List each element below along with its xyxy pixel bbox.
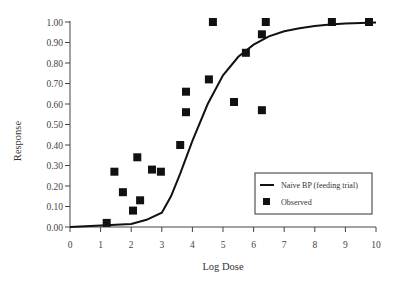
x-tick-label: 0 bbox=[68, 240, 73, 250]
observed-point bbox=[176, 141, 184, 149]
y-tick-label: 0.90 bbox=[46, 38, 63, 48]
legend: Naive BP (feeding trial) Observed bbox=[255, 173, 372, 214]
y-axis-ticks: 0.000.100.200.300.400.500.600.700.800.90… bbox=[46, 18, 70, 233]
observed-point bbox=[258, 106, 266, 114]
x-tick-label: 1 bbox=[98, 240, 103, 250]
observed-point bbox=[129, 207, 137, 215]
y-tick-label: 0.30 bbox=[46, 161, 63, 171]
observed-point bbox=[209, 18, 217, 26]
x-tick-label: 8 bbox=[312, 240, 317, 250]
legend-square-icon bbox=[263, 198, 270, 205]
legend-label-naive-bp: Naive BP (feeding trial) bbox=[281, 181, 358, 190]
observed-point bbox=[110, 168, 118, 176]
legend-label-observed: Observed bbox=[281, 198, 312, 207]
y-tick-label: 0.50 bbox=[46, 120, 63, 130]
y-tick-label: 0.40 bbox=[46, 141, 63, 151]
observed-point bbox=[365, 18, 373, 26]
x-tick-label: 7 bbox=[282, 240, 287, 250]
legend-box bbox=[255, 173, 372, 214]
x-tick-label: 6 bbox=[251, 240, 256, 250]
y-tick-label: 0.60 bbox=[46, 100, 63, 110]
y-tick-label: 0.20 bbox=[46, 182, 63, 192]
observed-point bbox=[119, 188, 127, 196]
observed-point bbox=[182, 88, 190, 96]
observed-point bbox=[133, 153, 141, 161]
x-axis-ticks: 012345678910 bbox=[68, 227, 381, 250]
observed-point bbox=[242, 49, 250, 57]
observed-point bbox=[262, 18, 270, 26]
observed-point bbox=[230, 98, 238, 106]
y-tick-label: 0.00 bbox=[46, 223, 63, 233]
observed-point bbox=[148, 166, 156, 174]
x-tick-label: 3 bbox=[159, 240, 164, 250]
observed-point bbox=[157, 168, 165, 176]
y-axis-title: Response bbox=[12, 121, 23, 162]
y-tick-label: 0.80 bbox=[46, 59, 63, 69]
x-tick-label: 10 bbox=[371, 240, 381, 250]
dose-response-chart: 0.000.100.200.300.400.500.600.700.800.90… bbox=[0, 0, 400, 284]
y-tick-label: 0.70 bbox=[46, 79, 63, 89]
y-tick-label: 0.10 bbox=[46, 202, 63, 212]
x-axis-title: Log Dose bbox=[202, 261, 243, 272]
observed-point bbox=[136, 196, 144, 204]
observed-point bbox=[182, 108, 190, 116]
x-tick-label: 5 bbox=[221, 240, 226, 250]
observed-point bbox=[103, 219, 111, 227]
x-tick-label: 4 bbox=[190, 240, 195, 250]
observed-point bbox=[205, 75, 213, 83]
x-tick-label: 2 bbox=[129, 240, 134, 250]
y-tick-label: 1.00 bbox=[46, 18, 63, 28]
observed-point bbox=[328, 18, 336, 26]
observed-point bbox=[258, 30, 266, 38]
x-tick-label: 9 bbox=[343, 240, 348, 250]
